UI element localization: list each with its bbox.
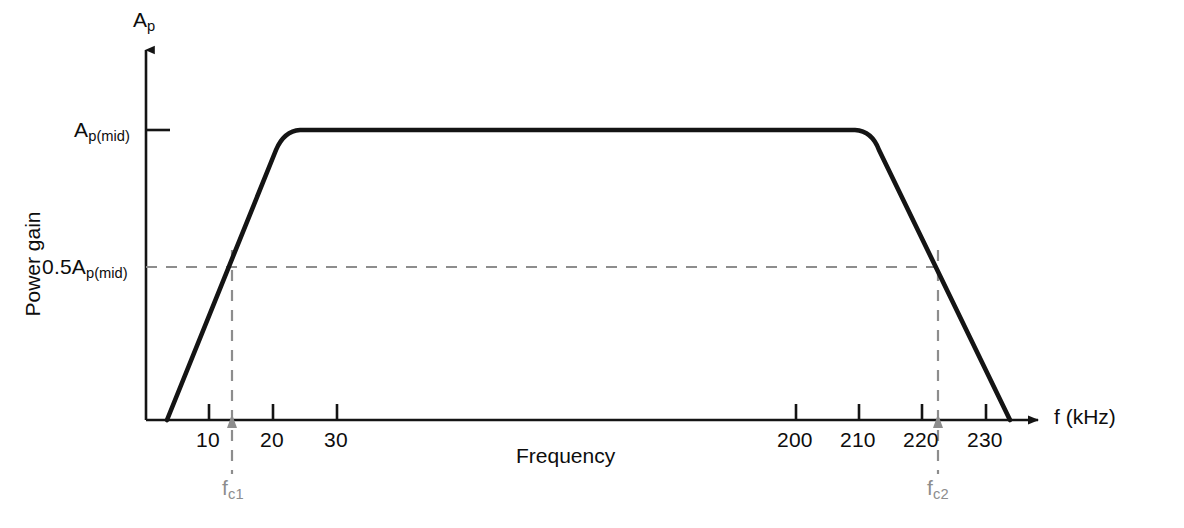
x-axis-unit-label: f (kHz) (1054, 405, 1116, 429)
fc1-label: fc1 (222, 476, 244, 502)
x-tick-label-20: 20 (260, 428, 284, 452)
x-tick-label-230: 230 (967, 428, 1003, 452)
fc2-label: fc2 (927, 476, 949, 502)
x-tick-label-220: 220 (903, 428, 939, 452)
ytick-mid-main: A (74, 118, 88, 141)
x-tick-label-210: 210 (840, 428, 876, 452)
ytick-half-main: 0.5A (42, 255, 86, 278)
x-tick-label-30: 30 (324, 428, 348, 452)
y-tick-label-half-ap-mid: 0.5Ap(mid) (42, 255, 128, 281)
fc1-sub: c1 (228, 486, 244, 502)
y-axis-title: Power gain (21, 199, 45, 329)
y-axis-symbol-sub: p (147, 18, 155, 34)
x-tick-label-10: 10 (196, 428, 220, 452)
ytick-half-sub: p(mid) (86, 265, 128, 281)
y-tick-label-ap-mid: Ap(mid) (74, 118, 130, 144)
ytick-mid-sub: p(mid) (88, 128, 130, 144)
x-tick-marks (209, 404, 986, 420)
y-axis-symbol-main: A (133, 8, 147, 31)
fc2-sub: c2 (933, 486, 949, 502)
chart-figure: Ap Ap(mid) 0.5Ap(mid) Power gain 10 20 3… (0, 0, 1184, 528)
response-curve (167, 130, 1010, 420)
x-tick-label-200: 200 (777, 428, 813, 452)
y-axis-symbol: Ap (133, 8, 155, 34)
x-axis-title: Frequency (516, 444, 615, 468)
